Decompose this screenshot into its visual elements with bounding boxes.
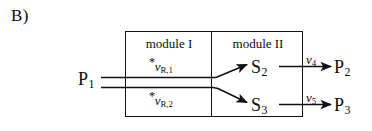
node-s3-sub: 3 <box>262 103 268 117</box>
rate-label-v4-sub: 4 <box>312 58 316 68</box>
node-s2-sub: 2 <box>262 65 268 79</box>
rate-label-vR1-sub: R,1 <box>160 65 173 75</box>
node-p2: P2 <box>334 58 350 79</box>
node-s2-base: S <box>251 57 261 77</box>
node-p2-sub: 2 <box>345 65 351 79</box>
rate-label-v5: v5 <box>306 91 316 106</box>
node-p1-base: P <box>78 69 88 89</box>
node-p3: P3 <box>334 96 350 117</box>
node-p3-base: P <box>334 95 344 115</box>
rate-label-vR2-sub: R,2 <box>160 99 173 109</box>
rate-label-v5-sub: 5 <box>312 96 316 106</box>
figure-panel-b: B) module I module II P1 S2 S3 P2 P3 *vR… <box>0 0 372 131</box>
node-s3: S3 <box>251 96 267 117</box>
node-s2: S2 <box>251 58 267 79</box>
node-p1-sub: 1 <box>89 77 95 91</box>
node-p1: P1 <box>78 70 94 91</box>
node-s3-base: S <box>251 95 261 115</box>
rate-label-v4: v4 <box>306 53 316 68</box>
rate-label-vR2: *vR,2 <box>149 90 173 109</box>
node-p2-base: P <box>334 57 344 77</box>
node-p3-sub: 3 <box>345 103 351 117</box>
rate-label-vR1: *vR,1 <box>149 56 173 75</box>
